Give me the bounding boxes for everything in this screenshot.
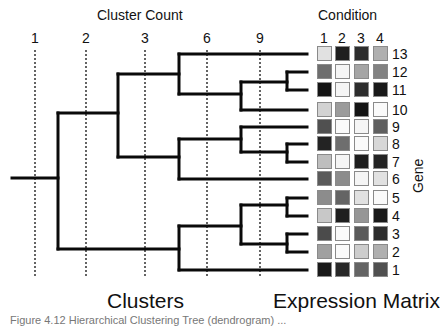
matrix-cell (317, 136, 332, 151)
matrix-cell (317, 262, 332, 277)
matrix-cell (354, 171, 369, 186)
matrix-cell (335, 208, 350, 223)
matrix-cell (317, 190, 332, 205)
matrix-cell (317, 226, 332, 241)
matrix-cell (373, 171, 388, 186)
cluster-cut-lines (35, 50, 260, 277)
matrix-cell (354, 154, 369, 169)
gene-label: 9 (392, 120, 400, 134)
matrix-cell (335, 244, 350, 259)
matrix-cell (335, 262, 350, 277)
matrix-cell (317, 82, 332, 97)
matrix-cell (354, 46, 369, 61)
matrix-cell (335, 171, 350, 186)
matrix-cell (317, 102, 332, 117)
gene-label: 3 (392, 227, 400, 241)
gene-label: 11 (392, 83, 407, 97)
matrix-cell (354, 190, 369, 205)
matrix-cell (354, 226, 369, 241)
matrix-cell (354, 102, 369, 117)
expression-matrix-label: Expression Matrix (273, 290, 440, 311)
matrix-cell (354, 82, 369, 97)
matrix-cell (335, 82, 350, 97)
matrix-cell (335, 154, 350, 169)
gene-label: 5 (392, 191, 400, 205)
matrix-cell (317, 119, 332, 134)
matrix-cell (373, 208, 388, 223)
gene-label: 12 (392, 65, 408, 79)
gene-label: 8 (392, 137, 400, 151)
matrix-cell (373, 154, 388, 169)
matrix-cell (335, 64, 350, 79)
matrix-cell (354, 64, 369, 79)
gene-label: 13 (392, 47, 408, 61)
gene-label: 6 (392, 172, 400, 186)
matrix-cell (373, 190, 388, 205)
gene-axis-label: Gene (411, 159, 425, 193)
matrix-cell (354, 119, 369, 134)
matrix-cell (373, 46, 388, 61)
matrix-cell (317, 64, 332, 79)
matrix-cell (335, 102, 350, 117)
matrix-cell (317, 154, 332, 169)
matrix-cell (335, 136, 350, 151)
matrix-cell (354, 244, 369, 259)
gene-label: 10 (392, 103, 408, 117)
matrix-cell (373, 64, 388, 79)
matrix-cell (373, 262, 388, 277)
matrix-cell (373, 226, 388, 241)
matrix-cell (373, 102, 388, 117)
matrix-cell (335, 226, 350, 241)
matrix-cell (335, 119, 350, 134)
gene-label: 1 (392, 263, 400, 277)
matrix-cell (354, 262, 369, 277)
figure-caption: Figure 4.12 Hierarchical Clustering Tree… (10, 315, 286, 326)
gene-label: 7 (392, 155, 400, 169)
matrix-cell (373, 244, 388, 259)
gene-label: 4 (392, 209, 400, 223)
matrix-cell (317, 46, 332, 61)
matrix-cell (373, 119, 388, 134)
matrix-cell (373, 82, 388, 97)
matrix-cell (317, 208, 332, 223)
matrix-cell (317, 171, 332, 186)
gene-label: 2 (392, 245, 400, 259)
matrix-cell (335, 46, 350, 61)
matrix-cell (317, 244, 332, 259)
matrix-cell (335, 190, 350, 205)
matrix-cell (354, 136, 369, 151)
matrix-cell (373, 136, 388, 151)
matrix-cell (354, 208, 369, 223)
clusters-label: Clusters (107, 290, 184, 311)
